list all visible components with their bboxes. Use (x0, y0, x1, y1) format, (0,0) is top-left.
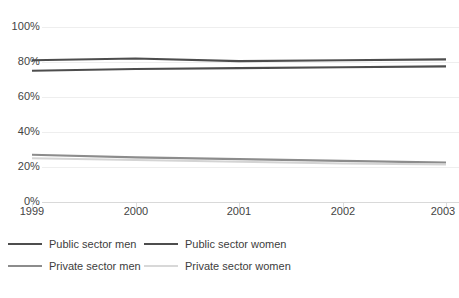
legend-row-1: Public sector men Public sector women (8, 233, 459, 255)
legend-swatch-private-sector-women (144, 265, 178, 267)
line-chart: 100% 80% 60% 40% 20% 0% 1999 2000 2001 2… (0, 0, 459, 298)
legend: Public sector men Public sector women Pr… (8, 233, 459, 277)
legend-label-private-sector-women: Private sector women (185, 260, 291, 272)
legend-label-private-sector-men: Private sector men (49, 260, 141, 272)
legend-swatch-public-sector-men (8, 243, 42, 245)
legend-label-public-sector-men: Public sector men (49, 238, 136, 250)
legend-item-private-sector-women[interactable]: Private sector women (144, 255, 344, 277)
legend-label-public-sector-women: Public sector women (185, 238, 287, 250)
series-layer (0, 0, 459, 215)
legend-swatch-private-sector-men (8, 265, 42, 267)
legend-swatch-public-sector-women (144, 243, 178, 245)
series-line-public-sector-men (32, 59, 446, 62)
legend-item-public-sector-women[interactable]: Public sector women (144, 233, 344, 255)
legend-item-private-sector-men[interactable]: Private sector men (8, 255, 144, 277)
legend-row-2: Private sector men Private sector women (8, 255, 459, 277)
legend-item-public-sector-men[interactable]: Public sector men (8, 233, 144, 255)
plot-area: 100% 80% 60% 40% 20% 0% 1999 2000 2001 2… (0, 0, 459, 215)
series-line-public-sector-women (32, 66, 446, 70)
